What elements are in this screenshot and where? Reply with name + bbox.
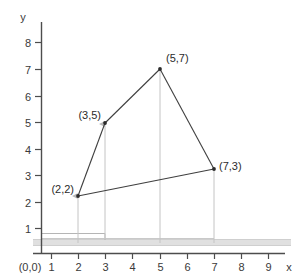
x-axis-label: x — [286, 261, 292, 273]
x-tick-label-9: 9 — [265, 261, 271, 273]
y-tick-label-5: 5 — [25, 117, 31, 129]
x-tick-label-3: 3 — [102, 261, 108, 273]
point-label-5-7: (5,7) — [166, 52, 189, 64]
plot-canvas: y x (0,0) 8 7 6 5 4 3 2 1 1 2 3 4 5 6 7 … — [0, 0, 301, 279]
vertex-dot-p1 — [103, 121, 107, 125]
vertex-dot-p2 — [158, 67, 162, 71]
x-tick-label-7: 7 — [211, 261, 217, 273]
x-tick-label-8: 8 — [238, 261, 244, 273]
point-label-3-5: (3,5) — [78, 109, 101, 121]
point-label-7-3: (7,3) — [219, 160, 242, 172]
baseline-band — [33, 240, 291, 245]
y-axis-label: y — [20, 11, 26, 23]
x-tick-label-5: 5 — [157, 261, 163, 273]
y-tick-label-3: 3 — [25, 170, 31, 182]
vertex-dot-p3 — [212, 167, 216, 171]
x-tick-label-1: 1 — [48, 261, 54, 273]
y-tick-label-2: 2 — [25, 197, 31, 209]
origin-label: (0,0) — [19, 261, 42, 273]
x-tick-label-6: 6 — [184, 261, 190, 273]
y-tick-label-6: 6 — [25, 91, 31, 103]
baseline-band-group — [33, 240, 291, 246]
plot-background — [0, 0, 301, 279]
x-tick-label-2: 2 — [75, 261, 81, 273]
y-tick-label-4: 4 — [25, 144, 31, 156]
x-tick-label-4: 4 — [129, 261, 135, 273]
point-label-2-2: (2,2) — [51, 183, 74, 195]
y-tick-label-7: 7 — [25, 64, 31, 76]
vertex-dot-p0 — [76, 194, 80, 198]
y-tick-label-1: 1 — [25, 223, 31, 235]
y-tick-label-8: 8 — [25, 37, 31, 49]
coordinate-plot-figure: y x (0,0) 8 7 6 5 4 3 2 1 1 2 3 4 5 6 7 … — [0, 0, 301, 279]
